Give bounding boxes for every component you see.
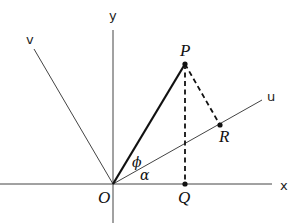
v-axis	[34, 49, 113, 184]
point-q-label: Q	[178, 188, 190, 207]
u-axis	[113, 100, 262, 184]
point-q-dot	[182, 181, 187, 186]
projection-pr	[185, 64, 220, 125]
x-axis-label: x	[280, 178, 288, 193]
v-axis-label: v	[26, 32, 34, 47]
u-axis-label: u	[267, 89, 275, 104]
point-p-dot	[182, 61, 187, 66]
point-r-label: R	[218, 127, 230, 146]
vector-op	[113, 64, 185, 184]
angle-alpha-label: α	[140, 167, 150, 183]
origin-label: O	[98, 188, 110, 207]
rotated-axes-diagram: x y u v O P Q R ϕ α	[0, 0, 300, 223]
point-p-label: P	[179, 41, 190, 60]
y-axis-label: y	[109, 8, 117, 23]
